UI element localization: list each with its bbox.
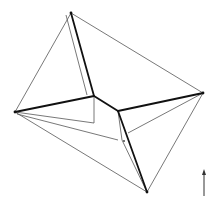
vertex-right (202, 92, 205, 95)
thin-edge (66, 15, 87, 95)
thin-edge (17, 114, 118, 140)
north-arrow-icon (202, 169, 206, 196)
vertex-left (14, 111, 17, 114)
vertex-top (70, 12, 73, 15)
thin-edges (15, 13, 203, 192)
thick-edges (15, 13, 203, 192)
thick-edge (118, 111, 147, 192)
vertex-bottom (146, 191, 149, 194)
vertex-points (14, 12, 205, 194)
thick-edge (94, 96, 118, 111)
thin-edge (71, 13, 203, 93)
marker-dot (123, 140, 125, 142)
thick-edge (71, 13, 94, 96)
pyramid-diagram (0, 0, 217, 203)
thin-edge (15, 112, 94, 123)
thin-edge (15, 13, 71, 112)
thick-edge (118, 93, 203, 111)
thin-edge (15, 112, 147, 192)
thick-edge (15, 96, 94, 112)
arrow-head (202, 169, 206, 175)
